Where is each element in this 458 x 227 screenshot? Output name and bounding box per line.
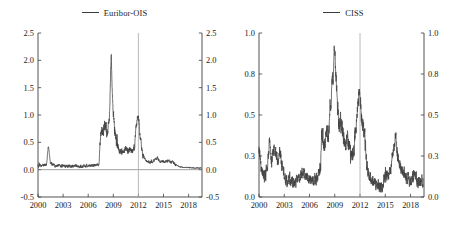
y-tick-label-right: 0.3 <box>428 152 438 161</box>
x-tick-label: 2006 <box>80 201 97 210</box>
plot-area-euribor-ois: 2.52.52.02.01.51.51.01.00.50.50.00.0-0.5… <box>0 0 229 227</box>
x-tick-label: 2018 <box>402 201 419 210</box>
y-tick-label-right: 1.0 <box>428 29 438 38</box>
data-series-line <box>38 54 201 168</box>
y-tick-label-left: 2.5 <box>24 29 34 38</box>
y-tick-label-left: 0.3 <box>245 152 255 161</box>
x-tick-label: 2009 <box>326 201 343 210</box>
x-tick-label: 2000 <box>30 201 47 210</box>
y-tick-label-right: -0.5 <box>206 193 219 202</box>
chart-panel-euribor-ois: Euribor-OIS 2.52.52.02.01.51.51.01.00.50… <box>0 0 229 227</box>
figure-container: Euribor-OIS 2.52.52.02.01.51.51.01.00.50… <box>0 0 458 227</box>
y-tick-label-right: 0.8 <box>428 70 438 79</box>
x-tick-label: 2006 <box>301 201 318 210</box>
chart-panel-ciss: CISS 1.01.00.80.80.50.50.30.30.00.020002… <box>229 0 458 227</box>
y-tick-label-right: 0.0 <box>428 193 438 202</box>
y-tick-label-left: 0.0 <box>24 166 34 175</box>
x-tick-label: 2012 <box>130 201 147 210</box>
x-tick-label: 2003 <box>276 201 293 210</box>
data-series-line <box>259 46 423 193</box>
x-tick-label: 2018 <box>180 201 197 210</box>
y-tick-label-right: 2.5 <box>206 29 216 38</box>
x-tick-label: 2015 <box>155 201 172 210</box>
y-tick-label-left: 1.0 <box>24 111 34 120</box>
y-tick-label-right: 0.5 <box>428 111 438 120</box>
y-tick-label-right: 1.0 <box>206 111 216 120</box>
x-tick-label: 2003 <box>55 201 72 210</box>
y-tick-label-left: 1.0 <box>245 29 255 38</box>
x-tick-label: 2015 <box>377 201 394 210</box>
x-tick-label: 2012 <box>352 201 369 210</box>
y-tick-label-left: 0.5 <box>24 138 34 147</box>
plot-area-ciss: 1.01.00.80.80.50.50.30.30.00.02000200320… <box>229 0 458 227</box>
x-tick-label: 2009 <box>105 201 122 210</box>
y-tick-label-right: 0.0 <box>206 166 216 175</box>
y-tick-label-left: 2.0 <box>24 56 34 65</box>
y-tick-label-left: 0.8 <box>245 70 255 79</box>
y-tick-label-right: 1.5 <box>206 84 216 93</box>
y-tick-label-right: 0.5 <box>206 138 216 147</box>
x-tick-label: 2000 <box>251 201 268 210</box>
y-tick-label-right: 2.0 <box>206 56 216 65</box>
y-tick-label-left: 0.5 <box>245 111 255 120</box>
y-tick-label-left: 1.5 <box>24 84 34 93</box>
